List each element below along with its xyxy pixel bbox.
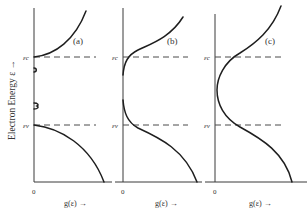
panel-b-valence-band-curve xyxy=(123,100,197,182)
panel-a-conduction-band-curve xyxy=(34,11,86,57)
panel-b: (b) εc εv 0 g(ε) → xyxy=(112,8,202,208)
panel-c-dos-curve xyxy=(217,6,292,182)
panel-b-epsilon-v-label: εv xyxy=(112,122,119,130)
panel-c: (c) εc εv 0 g(ε) → xyxy=(204,6,307,208)
panel-a-epsilon-v-label: εv xyxy=(23,122,30,130)
panel-a-origin-label: 0 xyxy=(32,188,36,196)
y-axis-label: Electron Energy ε → xyxy=(7,60,17,140)
panel-c-epsilon-v-label: εv xyxy=(204,122,211,130)
panel-a: (a) εc εv 0 g(ε) → xyxy=(23,8,112,208)
panel-c-label: (c) xyxy=(265,36,275,46)
panel-c-x-axis-label: g(ε) → xyxy=(249,199,272,208)
panel-a-label: (a) xyxy=(73,36,83,46)
panel-a-valence-band-curve xyxy=(34,125,104,182)
panel-c-origin-label: 0 xyxy=(213,188,217,196)
panel-b-x-axis-label: g(ε) → xyxy=(155,199,178,208)
panel-b-origin-label: 0 xyxy=(121,188,125,196)
density-of-states-diagram: Electron Energy ε → (a) εc εv 0 g(ε) → (… xyxy=(0,0,308,211)
panel-b-label: (b) xyxy=(167,36,178,46)
panel-a-epsilon-c-label: εc xyxy=(23,54,30,62)
panel-a-x-axis-label: g(ε) → xyxy=(64,199,87,208)
panel-b-conduction-band-curve xyxy=(123,17,183,75)
panel-c-epsilon-c-label: εc xyxy=(204,54,211,62)
panel-a-impurity-level-lower xyxy=(34,103,38,109)
panel-b-epsilon-c-label: εc xyxy=(112,54,119,62)
